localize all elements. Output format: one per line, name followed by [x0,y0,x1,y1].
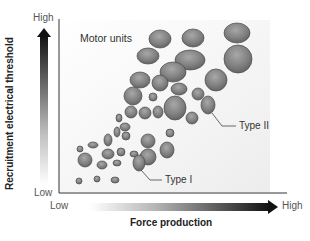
motor-unit-ellipse [97,161,107,169]
motor-unit-ellipse [94,176,100,182]
motor-unit-ellipse [149,30,171,48]
x-axis-low-label: Low [50,200,68,211]
motor-unit-ellipse [111,177,119,183]
y-axis-low-label: Low [34,187,52,198]
motor-unit-ellipse [133,155,145,171]
motor-unit-ellipse [76,178,82,184]
motor-unit-ellipse [130,72,150,88]
x-axis-high-label: High [282,200,303,211]
x-axis-gradient-arrow [90,200,278,214]
diagram-title: Motor units [80,32,132,44]
y-axis-title: Recruitment electrical threshold [4,37,15,190]
type-i-label: Type I [165,174,192,185]
motor-unit-ellipse [166,129,174,137]
motor-unit-ellipse [113,160,121,166]
motor-unit-ellipse [139,107,151,119]
motor-unit-ellipse [182,29,204,47]
motor-unit-ellipse [117,148,125,156]
motor-unit-ellipse [125,106,137,118]
motor-unit-ellipse [205,69,227,91]
motor-unit-ellipse [124,87,142,105]
motor-unit-ellipse [186,112,198,124]
motor-unit-ellipse [153,106,163,118]
motor-unit-ellipse [114,127,120,137]
motor-unit-ellipse [78,153,92,167]
x-axis-title: Force production [130,217,212,228]
motor-unit-ellipse [160,142,174,158]
motor-unit-recruitment-diagram: High Low Low High Motor units Force prod… [0,0,310,241]
motor-unit-ellipse [137,48,159,64]
motor-unit-ellipse [88,142,98,148]
motor-unit-ellipse [192,88,204,100]
motor-unit-ellipse [201,96,215,114]
motor-unit-ellipse [149,93,157,101]
y-axis-high-label: High [33,12,54,23]
motor-unit-ellipse [122,132,130,140]
motor-unit-ellipse [224,45,252,73]
y-axis-gradient-arrow [37,28,51,185]
motor-unit-ellipse [164,96,186,120]
motor-unit-ellipse [116,114,122,122]
motor-unit-ellipse [104,134,112,146]
type-ii-label: Type II [239,120,269,131]
motor-unit-ellipse [141,134,155,148]
motor-unit-ellipse [224,23,250,43]
motor-unit-ellipse [77,146,83,152]
motor-unit-ellipse [102,149,114,159]
motor-unit-ellipse [152,75,168,91]
motor-unit-ellipse [171,83,187,95]
motor-unit-ellipse [120,123,130,131]
